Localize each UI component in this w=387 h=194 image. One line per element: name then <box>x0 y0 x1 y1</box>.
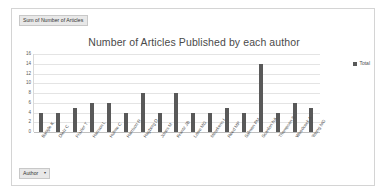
bar[interactable] <box>56 113 60 133</box>
y-tick-label: 10 <box>26 81 31 86</box>
x-tick-cell: Reed MP <box>219 134 236 182</box>
bar-cell <box>50 54 67 132</box>
y-tick-label: 2 <box>28 120 31 125</box>
y-axis-tick-labels: 0246810121416 <box>18 54 32 132</box>
x-tick-cell: Woodcock A <box>286 134 303 182</box>
bar-cell <box>117 54 134 132</box>
x-tick-cell: Thompson S <box>269 134 286 182</box>
author-filter-button[interactable]: Author ▾ <box>19 168 50 179</box>
bar-cell <box>67 54 84 132</box>
bar[interactable] <box>141 93 145 132</box>
bar[interactable] <box>107 103 111 132</box>
x-tick-cell: Hulme C <box>101 134 118 182</box>
plot-area: 0246810121416 Bangle KDietz CFrazier THa… <box>18 54 370 144</box>
y-tick-label: 16 <box>26 52 31 57</box>
x-tick-cell: Harrison R <box>117 134 134 182</box>
bar[interactable] <box>39 113 43 133</box>
x-axis-tick-labels: Bangle KDietz CFrazier THanson LHulme CH… <box>33 134 320 182</box>
x-tick-cell: Meurkens I <box>202 134 219 182</box>
pivot-field-header[interactable]: Sum of Number of Articles <box>19 15 88 26</box>
y-tick-label: 4 <box>28 110 31 115</box>
bar[interactable] <box>174 93 178 132</box>
chart-legend: Total <box>353 61 370 66</box>
x-tick-cell: Jones M <box>151 134 168 182</box>
author-filter-label: Author <box>23 171 38 176</box>
y-tick-label: 8 <box>28 91 31 96</box>
x-tick-cell: Hagberg D <box>134 134 151 182</box>
legend-swatch-total <box>353 62 357 66</box>
y-tick-label: 14 <box>26 61 31 66</box>
x-tick-cell: Scanlon NA <box>252 134 269 182</box>
x-tick-cell: Salmon PM <box>236 134 253 182</box>
legend-label-total: Total <box>359 61 370 66</box>
bar[interactable] <box>208 113 212 133</box>
bar[interactable] <box>242 113 246 133</box>
y-tick-label: 12 <box>26 71 31 76</box>
x-tick-cell: Hanson L <box>84 134 101 182</box>
bar-cell <box>168 54 185 132</box>
bar[interactable] <box>124 113 128 133</box>
chart-title: Number of Articles Published by each aut… <box>12 36 376 48</box>
bar[interactable] <box>73 108 77 132</box>
bar-cell <box>84 54 101 132</box>
chevron-down-icon: ▾ <box>44 171 46 175</box>
y-tick-label: 6 <box>28 100 31 105</box>
bar-cell <box>33 54 50 132</box>
y-tick-label: 0 <box>28 130 31 135</box>
bar[interactable] <box>191 113 195 133</box>
bar[interactable] <box>90 103 94 132</box>
pivot-chart-frame: Sum of Number of Articles Number of Arti… <box>11 8 375 186</box>
x-tick-cell: Frazier T <box>67 134 84 182</box>
x-tick-cell: Young MG <box>303 134 320 182</box>
x-tick-cell: Krantz JB <box>168 134 185 182</box>
x-tick-cell: Dietz C <box>50 134 67 182</box>
x-tick-cell: Lowe MG <box>185 134 202 182</box>
